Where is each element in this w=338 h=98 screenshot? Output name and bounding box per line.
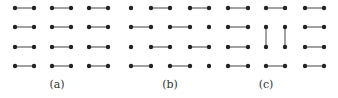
lattice-site [13,25,17,29]
lattice-site [283,6,287,10]
lattice-site [168,25,172,29]
lattice-site [207,6,211,10]
lattice-site [87,25,91,29]
lattice-site [50,25,54,29]
lattice-site [168,64,172,68]
lattice-site [303,45,307,49]
lattice-site [264,45,268,49]
lattice-site [50,6,54,10]
panel-b [129,6,211,68]
lattice-site [226,6,230,10]
panel-c-label: (c) [259,78,274,91]
lattice-site [283,45,287,49]
lattice-site [246,6,250,10]
lattice-site [303,6,307,10]
lattice-site [129,6,133,10]
lattice-site [106,6,110,10]
lattice-site [32,45,36,49]
lattice-site [168,6,172,10]
lattice-site [246,45,250,49]
lattice-site [32,6,36,10]
panel-c [226,6,326,68]
lattice-site [149,64,153,68]
lattice-site [322,64,326,68]
lattice-site [264,6,268,10]
lattice-site [149,6,153,10]
lattice-site [207,25,211,29]
lattice-site [50,45,54,49]
lattice-site [188,64,192,68]
lattice-site [13,45,17,49]
lattice-site [129,45,133,49]
lattice-site [69,6,73,10]
lattice-site [87,45,91,49]
lattice-site [207,45,211,49]
lattice-site [303,25,307,29]
lattice-site [149,45,153,49]
lattice-site [69,45,73,49]
lattice-site [264,64,268,68]
lattice-site [50,64,54,68]
lattice-site [129,25,133,29]
lattice-site [13,64,17,68]
panel-b-label: (b) [162,78,178,91]
lattice-site [106,25,110,29]
lattice-site [322,25,326,29]
lattice-site [129,64,133,68]
lattice-site [188,25,192,29]
lattice-site [87,6,91,10]
lattice-site [226,45,230,49]
lattice-site [322,45,326,49]
lattice-site [264,25,268,29]
lattice-site [246,64,250,68]
lattice-site [87,64,91,68]
lattice-site [226,25,230,29]
dimer-configuration-figure: (a) (b) (c) [0,0,338,98]
lattice-site [13,6,17,10]
lattice-site [322,6,326,10]
lattice-site [168,45,172,49]
lattice-site [69,64,73,68]
lattice-site [32,64,36,68]
panel-a-label: (a) [49,78,64,91]
lattice-site [188,45,192,49]
lattice-site [149,25,153,29]
lattice-site [207,64,211,68]
lattice-site [69,25,73,29]
lattice-site [283,25,287,29]
lattice-site [106,64,110,68]
lattice-site [188,6,192,10]
lattice-site [303,64,307,68]
lattice-site [226,64,230,68]
lattice-site [32,25,36,29]
lattice-site [106,45,110,49]
lattice-site [246,25,250,29]
panel-a [13,6,110,68]
lattice-site [283,64,287,68]
